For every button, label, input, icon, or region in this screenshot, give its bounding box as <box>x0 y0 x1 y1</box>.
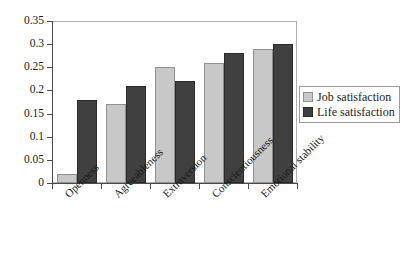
legend-label-life-satisfaction: Life satisfaction <box>317 106 395 118</box>
y-axis-tick-label: 0.25 <box>24 61 44 73</box>
legend-label-job-satisfaction: Job satisfaction <box>317 91 391 103</box>
legend-item-life-satisfaction: Life satisfaction <box>303 104 395 119</box>
y-axis-tick-label: 0.2 <box>30 84 44 96</box>
x-axis-tick <box>297 184 298 189</box>
legend-swatch-icon-life-satisfaction <box>303 107 313 117</box>
bar-job-1 <box>106 104 126 183</box>
chart-legend: Job satisfaction Life satisfaction <box>299 86 400 123</box>
x-axis-tick <box>150 184 151 189</box>
y-axis-tick-label: 0.15 <box>24 108 44 120</box>
y-axis-tick-label: 0.1 <box>30 131 44 143</box>
x-axis-tick <box>199 184 200 189</box>
y-axis-tick-label: 0.35 <box>24 15 44 27</box>
legend-swatch-icon-job-satisfaction <box>303 92 313 102</box>
bar-job-2 <box>155 67 175 183</box>
bar-chart-figure: 00.050.10.150.20.250.30.35 OpennessAgree… <box>0 0 412 275</box>
x-axis-tick <box>52 184 53 189</box>
y-axis-tick-label: 0 <box>38 177 44 189</box>
bar-job-3 <box>204 63 224 183</box>
y-axis-tick-label: 0.3 <box>30 38 44 50</box>
x-axis-tick <box>248 184 249 189</box>
legend-item-job-satisfaction: Job satisfaction <box>303 89 395 104</box>
y-axis-tick-label: 0.05 <box>24 154 44 166</box>
x-axis-tick <box>101 184 102 189</box>
bars-layer <box>52 21 297 183</box>
bar-job-4 <box>253 49 273 183</box>
